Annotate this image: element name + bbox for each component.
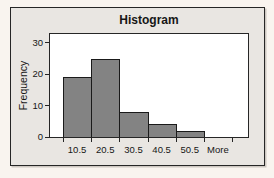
y-tick-label-0: 0 [19,132,43,142]
chart-frame[interactable]: Histogram Frequency 10.520.530.540.550.5… [10,7,265,166]
bars-area: 10.520.530.540.550.5More [63,34,232,137]
plot-area: 10.520.530.540.550.5More 0102030 [49,33,249,138]
screenshot-root: Histogram Frequency 10.520.530.540.550.5… [0,0,274,178]
x-axis-tick [91,137,92,142]
y-tick-label-20: 20 [19,69,43,79]
x-axis-tick [204,137,205,142]
histogram-bar-20.5[interactable] [91,59,120,138]
x-tick-label-More: More [204,144,232,155]
category-slot-50.5: 50.5 [176,34,204,137]
x-axis-tick [148,137,149,142]
y-axis-tick-0 [45,137,50,138]
y-axis-title: Frequency [17,46,30,126]
x-tick-label-10.5: 10.5 [63,144,91,155]
y-tick-label-10: 10 [19,101,43,111]
y-axis-tick-30 [45,42,50,43]
chart-title: Histogram [49,13,249,27]
histogram-bar-30.5[interactable] [119,112,148,137]
category-slot-40.5: 40.5 [148,34,176,137]
y-axis-tick-20 [45,74,50,75]
histogram-bar-40.5[interactable] [148,124,177,137]
y-axis-tick-10 [45,105,50,106]
category-slot-20.5: 20.5 [91,34,119,137]
category-slot-30.5: 30.5 [119,34,147,137]
histogram-bar-50.5[interactable] [176,131,205,137]
x-tick-label-20.5: 20.5 [91,144,119,155]
x-tick-label-50.5: 50.5 [176,144,204,155]
histogram-bar-10.5[interactable] [63,77,92,137]
category-slot-More: More [204,34,232,137]
x-axis-tick [232,137,233,142]
x-tick-label-30.5: 30.5 [119,144,147,155]
category-slot-10.5: 10.5 [63,34,91,137]
x-axis-tick [176,137,177,142]
x-tick-label-40.5: 40.5 [148,144,176,155]
x-axis-tick [63,137,64,142]
y-tick-label-30: 30 [19,38,43,48]
x-axis-tick [119,137,120,142]
